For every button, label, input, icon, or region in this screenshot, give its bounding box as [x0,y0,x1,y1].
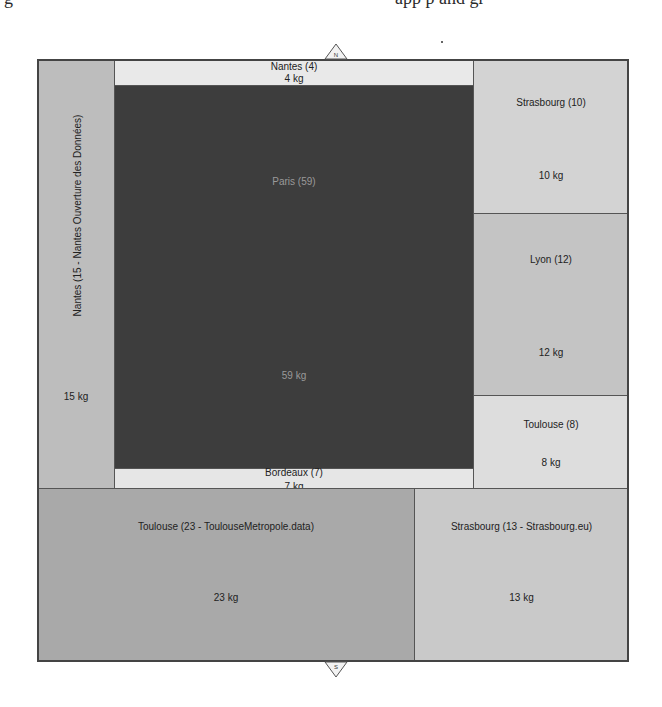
treemap-cell-paris[interactable]: Paris (59) 59 kg [114,85,474,469]
stray-dot [441,41,443,43]
treemap-cell-value: 59 kg [115,370,473,381]
treemap-cell-nantes-15[interactable]: Nantes (15 - Nantes Ouverture des Donnée… [37,59,115,489]
treemap-cell-label: Bordeaux (7) [115,467,473,478]
treemap-cell-label: Lyon (12) [474,254,628,265]
treemap-cell-strasbourg-10[interactable]: Strasbourg (10) 10 kg [473,59,629,214]
treemap-cell-toulouse-23[interactable]: Toulouse (23 - ToulouseMetropole.data) 2… [37,488,415,662]
treemap-chart: Nantes (15 - Nantes Ouverture des Donnée… [0,0,662,707]
treemap-cell-value: 13 kg [415,592,628,603]
treemap-cell-lyon[interactable]: Lyon (12) 12 kg [473,213,629,396]
treemap-cell-label: Toulouse (23 - ToulouseMetropole.data) [38,521,414,532]
treemap-cell-value: 4 kg [115,73,473,84]
treemap-cell-value: 10 kg [474,170,628,181]
treemap-cell-value: 15 kg [38,391,114,402]
treemap-cell-bordeaux[interactable]: Bordeaux (7) 7 kg [114,468,474,489]
treemap-cell-label: Nantes (4) [115,61,473,72]
treemap-cell-label: Toulouse (8) [474,419,628,430]
treemap-cell-label: Strasbourg (13 - Strasbourg.eu) [415,521,628,532]
treemap-cell-value: 8 kg [474,457,628,468]
treemap-cell-value: 12 kg [474,347,628,358]
treemap-cell-label: Strasbourg (10) [474,97,628,108]
treemap-cell-nantes-4[interactable]: Nantes (4) 4 kg [114,59,474,86]
treemap-cell-label: Nantes (15 - Nantes Ouverture des Donnée… [72,106,83,326]
treemap-cell-toulouse-8[interactable]: Toulouse (8) 8 kg [473,395,629,489]
svg-text:N: N [334,52,338,58]
treemap-cell-value: 23 kg [38,592,414,603]
treemap-cell-strasbourg-13[interactable]: Strasbourg (13 - Strasbourg.eu) 13 kg [414,488,629,662]
treemap-cell-label: Paris (59) [115,176,473,187]
svg-text:S: S [334,664,338,670]
